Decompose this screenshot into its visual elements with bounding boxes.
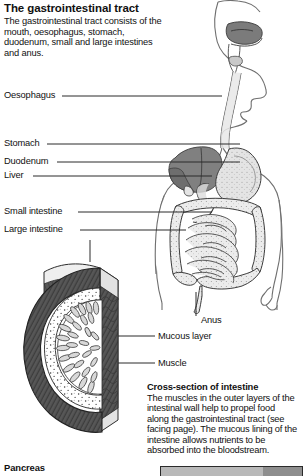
label-large-intestine: Large intestine: [4, 224, 63, 234]
label-anus: Anus: [201, 315, 222, 325]
intestine-cross-section: [24, 240, 118, 432]
mouth-and-pharynx: [226, 22, 262, 74]
next-figure-bar: [160, 466, 303, 476]
label-liver: Liver: [4, 170, 23, 180]
label-muscle: Muscle: [158, 358, 187, 368]
caption-body: The muscles in the outer layers of the i…: [147, 393, 299, 455]
cross-section-caption: Cross-section of intestine The muscles i…: [147, 381, 299, 455]
small-intestine-organ: [185, 215, 238, 283]
next-figure-heading: Pancreas: [4, 462, 45, 473]
label-mucous-layer: Mucous layer: [158, 331, 212, 341]
label-duodenum: Duodenum: [4, 156, 48, 166]
oesophagus-organ: [221, 72, 241, 149]
label-small-intestine: Small intestine: [4, 206, 62, 216]
caption-heading: Cross-section of intestine: [147, 381, 299, 392]
label-stomach: Stomach: [4, 138, 40, 148]
label-oesophagus: Oesophagus: [4, 90, 55, 100]
